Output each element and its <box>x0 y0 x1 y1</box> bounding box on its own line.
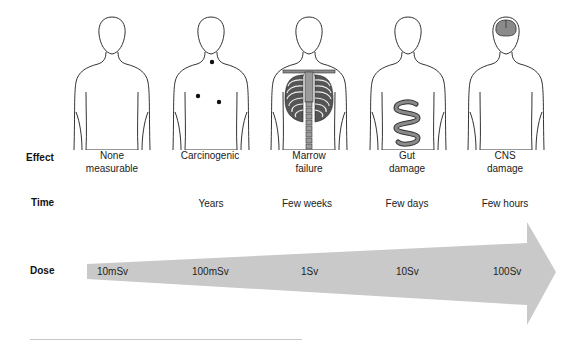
dose-10sv: 10Sv <box>396 266 419 277</box>
dose-1sv: 1Sv <box>301 266 318 277</box>
bottom-divider <box>30 339 302 340</box>
dose-100sv: 100Sv <box>493 266 521 277</box>
dose-100msv: 100mSv <box>192 266 229 277</box>
dose-arrow <box>0 0 580 341</box>
dose-10msv: 10mSv <box>97 266 128 277</box>
